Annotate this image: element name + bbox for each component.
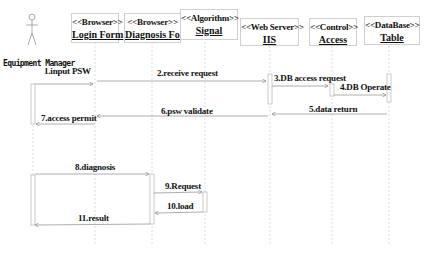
object-name: Diagnosis Form: [125, 28, 180, 41]
message-6-label: 6.psw validate: [161, 106, 213, 116]
message-10-label: 10.load: [167, 201, 193, 211]
object-login-form: <<Browser>> Login Form: [71, 13, 119, 43]
message-9-label: 9.Request: [165, 181, 201, 191]
object-table: <<DataBase>> Table: [364, 16, 420, 45]
actor-icon: [26, 14, 38, 45]
stereotype-label: <<Control>>: [310, 22, 356, 33]
message-3-label: 3.DB access request: [274, 73, 346, 83]
message-7-label: 7.access permit: [41, 113, 96, 123]
activation-bars: [31, 74, 391, 225]
object-name: Signal: [181, 24, 237, 37]
message-2-label: 2.receive request: [157, 68, 218, 78]
stereotype-label: <<Browser>>: [125, 17, 180, 28]
object-name: Table: [365, 31, 419, 44]
object-name: IIS: [241, 33, 298, 46]
object-signal: <<Algorithm>> Signal: [180, 9, 238, 40]
stereotype-label: <<Web Server>>: [241, 22, 298, 33]
object-name: Access: [310, 33, 356, 46]
message-5-label: 5.data return: [309, 104, 357, 114]
message-arrows: [35, 81, 387, 225]
object-name: Login Form: [72, 28, 118, 41]
message-8-label: 8.diagnosis: [75, 162, 115, 172]
stereotype-label: <<Algorithm>>: [181, 13, 237, 24]
message-11-label: 11.result: [78, 213, 109, 223]
stereotype-label: <<Browser>>: [72, 17, 118, 28]
message-1-label: 1.input PSW: [44, 66, 91, 76]
object-access: <<Control>> Access: [309, 18, 357, 46]
object-iis: <<Web Server>> IIS: [240, 18, 299, 46]
object-diagnosis-form: <<Browser>> Diagnosis Form: [124, 13, 181, 43]
stereotype-label: <<DataBase>>: [365, 20, 419, 31]
message-4-label: 4.DB Operate: [340, 82, 391, 92]
